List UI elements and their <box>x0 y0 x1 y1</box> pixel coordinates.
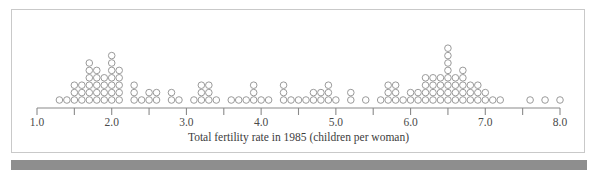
data-dot <box>86 82 93 89</box>
data-dot <box>280 89 287 96</box>
data-dot <box>191 97 198 104</box>
data-dot <box>258 97 265 104</box>
data-dot <box>86 75 93 82</box>
data-dot <box>86 97 93 104</box>
data-dot <box>86 60 93 67</box>
data-dot <box>467 82 474 89</box>
data-dot <box>243 97 250 104</box>
data-dot <box>86 89 93 96</box>
data-dot <box>318 89 325 96</box>
data-dot <box>348 97 355 104</box>
data-dot <box>206 89 213 96</box>
data-dot <box>362 97 369 104</box>
data-dot <box>437 89 444 96</box>
data-dot <box>325 97 332 104</box>
bottom-gray-bar <box>11 160 587 170</box>
x-tick-label: 8.0 <box>553 116 568 128</box>
data-dot <box>108 60 115 67</box>
data-dot <box>415 89 422 96</box>
data-dot <box>422 89 429 96</box>
data-dot <box>64 97 71 104</box>
dotplot-chart: 1.02.03.04.05.06.07.08.0 Total fertility… <box>0 0 598 178</box>
data-dot <box>138 97 145 104</box>
data-dot <box>93 82 100 89</box>
data-dot <box>280 97 287 104</box>
data-dot <box>437 82 444 89</box>
data-dot <box>467 89 474 96</box>
data-dot <box>206 82 213 89</box>
data-dot <box>460 75 467 82</box>
data-dot <box>131 89 138 96</box>
data-dot <box>392 89 399 96</box>
data-dot <box>445 52 452 59</box>
data-dot <box>333 97 340 104</box>
data-dot <box>101 82 108 89</box>
data-dot <box>527 97 534 104</box>
data-dot <box>108 52 115 59</box>
data-dot <box>71 82 78 89</box>
data-dot <box>452 75 459 82</box>
data-dot <box>206 97 213 104</box>
data-dot <box>452 82 459 89</box>
data-dot <box>131 97 138 104</box>
data-dot <box>445 82 452 89</box>
data-dot <box>108 75 115 82</box>
data-dot <box>445 75 452 82</box>
data-dot <box>437 75 444 82</box>
data-dot <box>325 89 332 96</box>
x-tick-label: 1.0 <box>30 116 45 128</box>
data-dot <box>392 82 399 89</box>
data-dot <box>542 97 549 104</box>
data-dot <box>445 45 452 52</box>
x-tick-label: 6.0 <box>403 116 418 128</box>
data-dot <box>422 82 429 89</box>
data-dot <box>198 89 205 96</box>
data-dot <box>93 75 100 82</box>
data-dot <box>460 97 467 104</box>
data-dot <box>168 89 175 96</box>
data-dot <box>422 97 429 104</box>
data-dot <box>452 97 459 104</box>
x-tick-labels-layer: 1.02.03.04.05.06.07.08.0 <box>30 116 568 128</box>
data-dot <box>101 97 108 104</box>
data-dot <box>93 89 100 96</box>
data-dot <box>445 60 452 67</box>
data-dot <box>325 82 332 89</box>
data-dot <box>385 89 392 96</box>
data-dot <box>116 67 123 74</box>
data-dot <box>377 97 384 104</box>
data-dot <box>250 97 257 104</box>
data-dot <box>385 82 392 89</box>
data-dot <box>71 89 78 96</box>
data-dot <box>460 89 467 96</box>
data-dot <box>422 75 429 82</box>
data-dot <box>392 97 399 104</box>
data-dot <box>557 97 564 104</box>
data-dot <box>430 75 437 82</box>
figure-container: 1.02.03.04.05.06.07.08.0 Total fertility… <box>0 0 598 178</box>
data-dot <box>93 97 100 104</box>
x-tick-label: 5.0 <box>329 116 344 128</box>
data-dot <box>79 82 86 89</box>
data-dot <box>303 97 310 104</box>
data-dot <box>71 97 78 104</box>
data-dot <box>437 97 444 104</box>
data-dot <box>101 75 108 82</box>
data-dot <box>310 89 317 96</box>
data-dot <box>198 97 205 104</box>
data-dot <box>176 97 183 104</box>
data-dot <box>79 89 86 96</box>
data-dot <box>385 97 392 104</box>
data-dot <box>467 97 474 104</box>
dot-stacks-layer <box>56 45 563 103</box>
data-dot <box>265 97 272 104</box>
data-dot <box>430 82 437 89</box>
data-dot <box>497 97 504 104</box>
data-dot <box>475 82 482 89</box>
data-dot <box>288 97 295 104</box>
data-dot <box>101 89 108 96</box>
x-tick-label: 4.0 <box>254 116 269 128</box>
data-dot <box>430 89 437 96</box>
data-dot <box>108 67 115 74</box>
data-dot <box>415 97 422 104</box>
